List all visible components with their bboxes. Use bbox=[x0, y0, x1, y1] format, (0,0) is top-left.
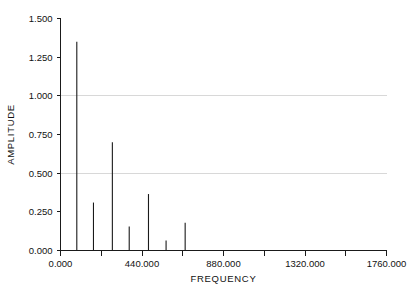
y-tick-label: 0.750 bbox=[29, 129, 53, 140]
x-tick-label: 1760.000 bbox=[367, 258, 407, 269]
y-tick-label: 1.500 bbox=[29, 13, 53, 24]
chart-background bbox=[0, 0, 414, 288]
y-tick-label: 1.000 bbox=[29, 90, 53, 101]
y-tick-label: 0.500 bbox=[29, 168, 53, 179]
x-tick-label: 440.000 bbox=[125, 258, 159, 269]
x-tick-label: 880.000 bbox=[206, 258, 240, 269]
y-tick-label: 1.250 bbox=[29, 52, 53, 63]
y-tick-label: 0.250 bbox=[29, 206, 53, 217]
frequency-spectrum-chart: 0.0000.2500.5000.7501.0001.2501.500 0.00… bbox=[0, 0, 414, 288]
y-tick-label: 0.000 bbox=[29, 245, 53, 256]
chart-canvas: 0.0000.2500.5000.7501.0001.2501.500 0.00… bbox=[0, 0, 414, 288]
x-axis-title: FREQUENCY bbox=[191, 273, 257, 284]
x-tick-label: 0.000 bbox=[49, 258, 73, 269]
x-tick-label: 1320.000 bbox=[285, 258, 325, 269]
y-axis-title: AMPLITUDE bbox=[5, 104, 16, 165]
